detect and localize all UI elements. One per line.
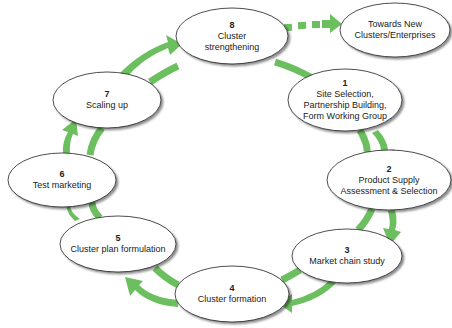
node-5-number: 5 [115,233,120,244]
node-5-text-1: Cluster plan formulation [70,244,165,255]
node-4: 4 Cluster formation [175,270,289,318]
node-8-text-1: Cluster [218,31,247,42]
node-8-number: 8 [229,20,234,31]
node-new-text-2: Clusters/Enterprises [354,30,435,41]
node-3-number: 3 [344,245,349,256]
node-7: 7 Scaling up [53,76,161,124]
node-2-number: 2 [386,164,391,175]
node-1-text-1: Site Selection, [316,89,374,100]
arrow-6-to-7 [62,119,78,153]
node-4-text-1: Cluster formation [198,294,267,305]
node-1-text-2: Partnership Building, [303,100,386,111]
arc-2-to-3-inner [358,209,372,230]
node-1: 1 Site Selection, Partnership Building, … [288,72,402,128]
node-towards-new: Towards New Clusters/Enterprises [340,4,450,56]
node-2-text-2: Assessment & Selection [340,186,437,197]
node-7-text-1: Scaling up [86,100,128,111]
arc-1-to-2-inner [360,130,367,152]
node-3: 3 Market chain study [292,232,402,280]
node-6-text-1: Test marketing [33,180,92,191]
node-1-text-3: Form Working Group [303,111,387,122]
node-3-text-1: Market chain study [309,256,385,267]
node-2-text-1: Product Supply [358,175,419,186]
arc-6-to-7-inner [90,128,102,155]
node-1-number: 1 [342,78,347,89]
node-8-text-2: strengthening [205,42,260,53]
node-4-number: 4 [229,283,234,294]
node-new-text-1: Towards New [368,19,422,30]
node-7-number: 7 [104,89,109,100]
node-2: 2 Product Supply Assessment & Selection [327,154,451,206]
arc-5-to-6-inner [92,202,100,218]
node-6-number: 6 [59,169,64,180]
node-8: 8 Cluster strengthening [176,10,288,62]
node-5: 5 Cluster plan formulation [60,220,176,268]
node-6: 6 Test marketing [8,156,116,204]
